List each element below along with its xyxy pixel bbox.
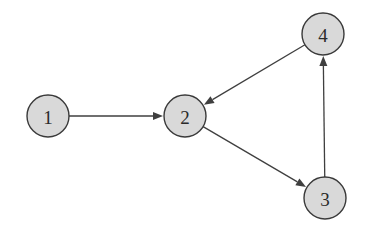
node-label: 4 xyxy=(318,25,328,46)
arrowhead-icon xyxy=(153,112,163,120)
edge-line xyxy=(203,127,297,182)
node-label: 2 xyxy=(180,107,190,128)
node-label: 3 xyxy=(320,189,330,210)
edge-1-to-2 xyxy=(69,112,163,120)
edge-line xyxy=(323,66,324,177)
node-label: 1 xyxy=(43,107,53,128)
edge-2-to-3 xyxy=(203,127,306,187)
edge-4-to-2 xyxy=(204,45,305,105)
directed-graph: 1234 xyxy=(0,0,370,236)
edge-3-to-4 xyxy=(319,56,327,177)
node-3: 3 xyxy=(304,177,346,219)
arrowhead-icon xyxy=(319,56,327,66)
edge-line xyxy=(213,45,305,100)
node-4: 4 xyxy=(302,13,344,55)
graph-canvas: 1234 xyxy=(0,0,370,236)
arrowhead-icon xyxy=(295,178,306,187)
arrowhead-icon xyxy=(204,96,215,105)
node-2: 2 xyxy=(164,95,206,137)
node-1: 1 xyxy=(27,95,69,137)
